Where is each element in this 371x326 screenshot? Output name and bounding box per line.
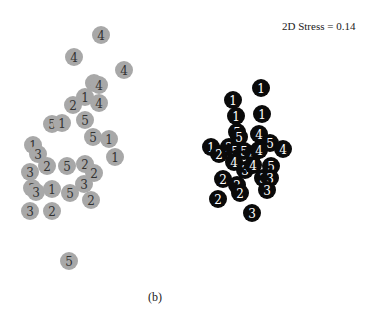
point-label: 2 <box>214 193 222 207</box>
point-label: 5 <box>89 131 97 145</box>
point-label: 4 <box>95 97 103 111</box>
data-point: 3 <box>21 163 39 181</box>
data-point: 2 <box>38 157 56 175</box>
data-point: 4 <box>274 140 292 158</box>
point-label: 1 <box>258 108 266 122</box>
data-point: 4 <box>115 61 133 79</box>
point-label: 5 <box>63 160 71 174</box>
point-label: 3 <box>26 166 34 180</box>
point-label: 4 <box>255 144 263 158</box>
point-label: 5 <box>81 114 89 128</box>
data-point: 1 <box>100 130 118 148</box>
point-label: 1 <box>232 110 240 124</box>
point-label: 3 <box>26 205 34 219</box>
point-label: 3 <box>34 148 42 162</box>
data-point: 4 <box>90 94 108 112</box>
data-point: 1 <box>53 114 71 132</box>
point-label: 3 <box>80 178 88 192</box>
data-point: 5 <box>58 157 76 175</box>
black-group-series: 1111554541225544434533322223 <box>202 79 292 222</box>
point-label: 1 <box>105 133 113 147</box>
point-label: 2 <box>87 194 95 208</box>
data-point: 5 <box>76 111 94 129</box>
point-label: 1 <box>111 151 119 165</box>
data-point: 1 <box>252 79 270 97</box>
data-point: 4 <box>65 48 83 66</box>
point-label: 4 <box>97 29 105 43</box>
point-label: 2 <box>236 187 244 201</box>
point-label: 3 <box>248 207 256 221</box>
point-label: 1 <box>81 91 89 105</box>
data-point: 1 <box>106 148 124 166</box>
point-label: 1 <box>58 117 66 131</box>
data-point: 1 <box>43 180 61 198</box>
scatter-points: 4444412451551113235223331523251111554541… <box>21 26 292 270</box>
mds-scatter-plot: 4444412451551113235223331523251111554541… <box>0 0 371 326</box>
data-point: 1 <box>224 91 242 109</box>
point-label: 4 <box>70 51 78 65</box>
point-label: 3 <box>263 184 271 198</box>
point-label: 2 <box>219 173 227 187</box>
data-point: 2 <box>64 96 82 114</box>
data-point: 4 <box>90 76 108 94</box>
data-point: 3 <box>258 181 276 199</box>
data-point: 5 <box>60 252 78 270</box>
data-point: 3 <box>243 204 261 222</box>
data-point: 4 <box>92 26 110 44</box>
gray-group-series: 444441245155111323522333152325 <box>21 26 133 270</box>
point-label: 3 <box>32 186 40 200</box>
data-point: 2 <box>209 190 227 208</box>
point-label: 2 <box>48 205 56 219</box>
point-label: 2 <box>69 99 77 113</box>
point-label: 4 <box>120 64 128 78</box>
data-point: 1 <box>227 107 245 125</box>
figure-caption: (b) <box>148 290 162 305</box>
point-label: 1 <box>257 82 265 96</box>
data-point: 2 <box>231 184 249 202</box>
data-point: 1 <box>253 105 271 123</box>
point-label: 5 <box>65 255 73 269</box>
data-point: 2 <box>43 202 61 220</box>
point-label: 1 <box>229 94 237 108</box>
point-label: 4 <box>279 143 287 157</box>
point-label: 1 <box>48 183 56 197</box>
data-point: 2 <box>82 191 100 209</box>
point-label: 2 <box>90 167 98 181</box>
data-point: 5 <box>61 184 79 202</box>
stress-annotation: 2D Stress = 0.14 <box>282 20 355 32</box>
data-point: 3 <box>21 202 39 220</box>
data-point: 3 <box>27 183 45 201</box>
point-label: 4 <box>249 159 257 173</box>
point-label: 4 <box>95 79 103 93</box>
data-point: 5 <box>84 128 102 146</box>
point-label: 5 <box>66 187 74 201</box>
point-label: 2 <box>43 160 51 174</box>
